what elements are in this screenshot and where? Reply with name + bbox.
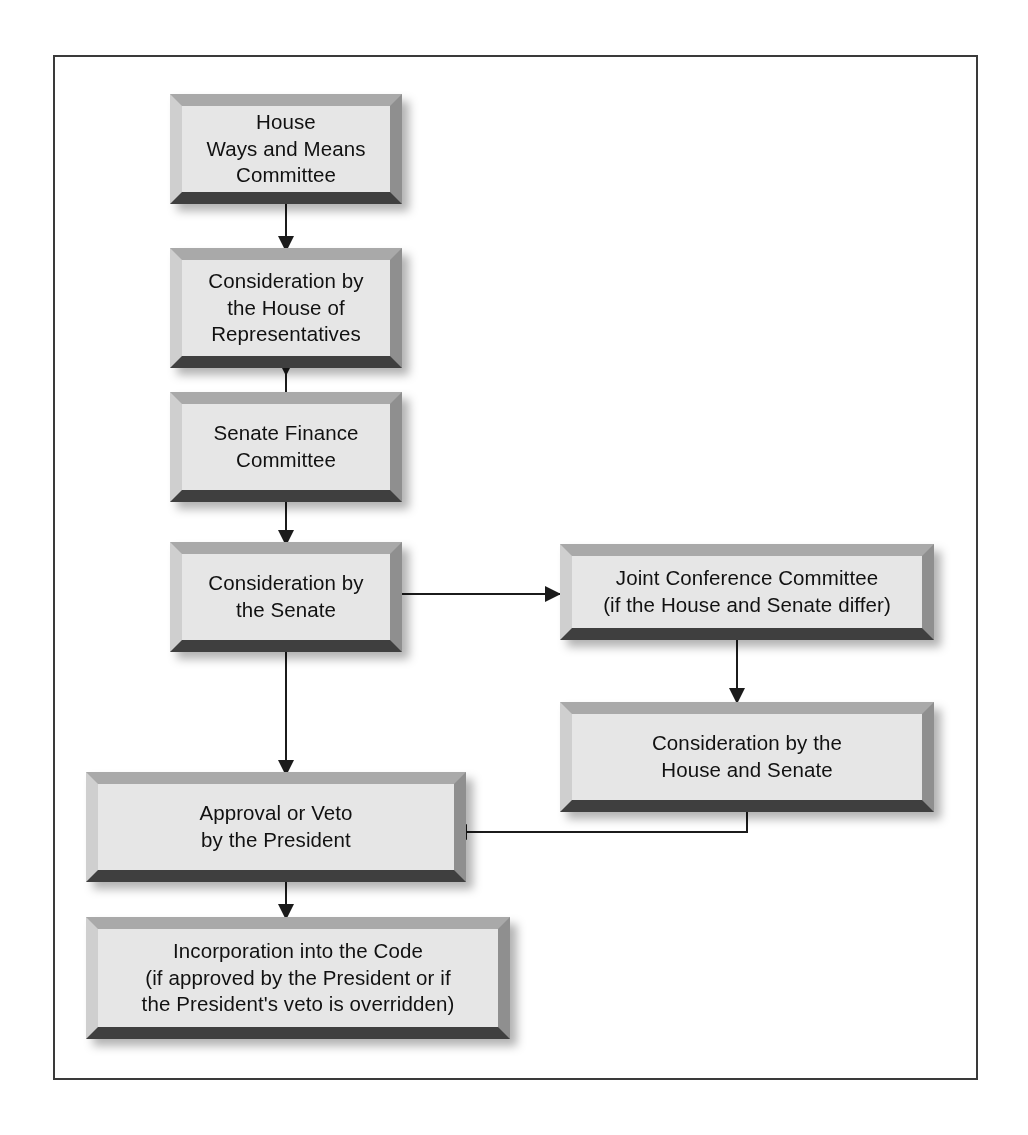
connector-line-senate-to-president bbox=[285, 652, 287, 777]
connector-line-senate-to-joint-conference bbox=[402, 593, 567, 595]
node-face: Consideration by the Senate bbox=[182, 554, 390, 640]
node-consideration-by-the-senate[interactable]: Consideration by the Senate bbox=[170, 542, 402, 652]
connector-arrow-senate-to-joint-conference bbox=[545, 586, 561, 602]
node-face: Approval or Veto by the President bbox=[98, 784, 454, 870]
connector-line-house-senate-to-president bbox=[455, 831, 748, 833]
node-label: Senate Finance Committee bbox=[210, 420, 363, 473]
node-incorporation-into-the-code[interactable]: Incorporation into the Code (if approved… bbox=[86, 917, 510, 1039]
flowchart-canvas: House Ways and Means Committee Considera… bbox=[0, 0, 1028, 1135]
node-house-ways-and-means-committee[interactable]: House Ways and Means Committee bbox=[170, 94, 402, 204]
node-label: Approval or Veto by the President bbox=[195, 800, 356, 853]
node-face: Incorporation into the Code (if approved… bbox=[98, 929, 498, 1027]
node-face: House Ways and Means Committee bbox=[182, 106, 390, 192]
diagram-frame: House Ways and Means Committee Considera… bbox=[53, 55, 978, 1080]
node-approval-or-veto-by-the-president[interactable]: Approval or Veto by the President bbox=[86, 772, 466, 882]
node-label: Joint Conference Committee (if the House… bbox=[599, 565, 895, 618]
node-label: House Ways and Means Committee bbox=[202, 109, 369, 189]
node-label: Consideration by the Senate bbox=[204, 570, 367, 623]
node-label: Consideration by the House of Representa… bbox=[204, 268, 367, 348]
node-label: Consideration by the House and Senate bbox=[648, 730, 846, 783]
node-senate-finance-committee[interactable]: Senate Finance Committee bbox=[170, 392, 402, 502]
node-joint-conference-committee[interactable]: Joint Conference Committee (if the House… bbox=[560, 544, 934, 640]
node-face: Consideration by the House and Senate bbox=[572, 714, 922, 800]
node-consideration-by-the-house-and-senate[interactable]: Consideration by the House and Senate bbox=[560, 702, 934, 812]
node-face: Consideration by the House of Representa… bbox=[182, 260, 390, 356]
node-consideration-by-the-house-of-representatives[interactable]: Consideration by the House of Representa… bbox=[170, 248, 402, 368]
node-face: Joint Conference Committee (if the House… bbox=[572, 556, 922, 628]
node-label: Incorporation into the Code (if approved… bbox=[138, 938, 459, 1018]
node-face: Senate Finance Committee bbox=[182, 404, 390, 490]
